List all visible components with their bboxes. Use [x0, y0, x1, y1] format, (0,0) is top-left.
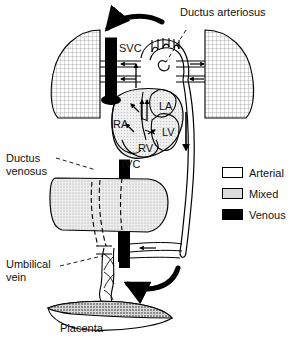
right-lung	[205, 30, 254, 118]
superior-vena-cava	[101, 38, 121, 105]
left-lung	[51, 30, 100, 118]
label-umbilical-vein-line1: Umbilical	[6, 258, 51, 270]
label-ivc: IVC	[122, 158, 140, 170]
legend-label-venous: Venous	[249, 209, 286, 221]
umbilical-vein-leader	[60, 256, 102, 266]
umbilical-arteries	[130, 243, 182, 259]
aortic-arch	[141, 38, 189, 80]
liver	[50, 178, 168, 232]
legend: Arterial Mixed Venous	[222, 162, 296, 225]
right-pulmonary-vessels	[176, 61, 205, 82]
label-ra: RA	[113, 118, 128, 130]
label-ductus-venosus-line2: venosus	[6, 165, 47, 177]
legend-item-venous: Venous	[222, 204, 296, 225]
label-umbilical-vein-line2: vein	[6, 271, 26, 283]
legend-label-arterial: Arterial	[249, 167, 284, 179]
legend-swatch-arterial	[222, 167, 243, 178]
label-rv: RV	[138, 142, 153, 154]
label-svc: SVC	[119, 42, 142, 54]
legend-item-mixed: Mixed	[222, 183, 296, 204]
label-la: LA	[159, 100, 172, 112]
label-placenta: Placenta	[60, 322, 103, 334]
svc-flow-arrow	[108, 16, 162, 28]
label-ductus-venosus-line1: Ductus	[6, 152, 40, 164]
legend-item-arterial: Arterial	[222, 162, 296, 183]
label-ductus-arteriosus: Ductus arteriosus	[180, 6, 266, 18]
fetal-circulation-figure: Ductus arteriosus Ductus venosus Umbilic…	[0, 0, 299, 345]
umbilical-flow-arrow	[128, 268, 178, 289]
legend-swatch-venous	[222, 209, 243, 220]
legend-swatch-mixed	[222, 188, 243, 199]
label-lv: LV	[162, 126, 175, 138]
legend-label-mixed: Mixed	[249, 188, 278, 200]
ductus-venosus-leader	[56, 158, 96, 170]
